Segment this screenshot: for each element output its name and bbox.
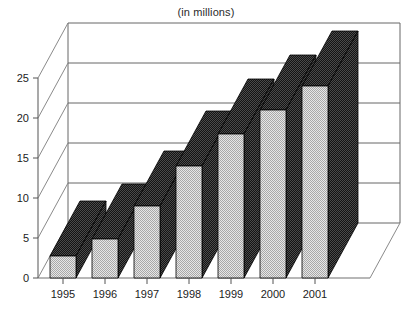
x-axis-tick-label: 1997 <box>135 288 159 300</box>
y-axis: 25 20 15 10 5 0 <box>17 72 38 284</box>
y-axis-tick-label: 20 <box>17 112 29 124</box>
x-axis-tick-label: 1998 <box>177 288 201 300</box>
y-axis-tick-label: 25 <box>17 72 29 84</box>
y-axis-tick-label: 0 <box>23 272 29 284</box>
y-axis-tick-label: 15 <box>17 152 29 164</box>
bar-chart-figure: (in millions) <box>0 0 412 316</box>
chart-plot-area: 25 20 15 10 5 0 <box>0 0 412 316</box>
y-axis-tick-label: 10 <box>17 192 29 204</box>
x-axis-tick-label: 1996 <box>93 288 117 300</box>
x-axis-tick-label: 2000 <box>261 288 285 300</box>
x-axis-tick-label: 1999 <box>219 288 243 300</box>
x-axis-tick-label: 1995 <box>51 288 75 300</box>
y-axis-tick-label: 5 <box>23 232 29 244</box>
x-axis-tick-label: 2001 <box>303 288 327 300</box>
x-axis: 1995 1996 1997 1998 1999 2000 2001 <box>51 278 327 300</box>
